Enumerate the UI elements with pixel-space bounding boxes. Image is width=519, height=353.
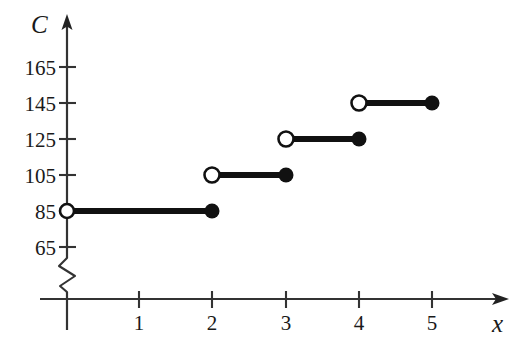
step-function-chart: 165 145 125 105 85 65 1 2 3 4 5 C x bbox=[0, 0, 519, 353]
open-endpoint-3 bbox=[279, 132, 294, 147]
open-endpoint-4 bbox=[352, 96, 367, 111]
x-axis-title: x bbox=[491, 310, 503, 337]
open-endpoint-1 bbox=[60, 204, 74, 218]
filled-endpoint-4 bbox=[425, 96, 440, 111]
step-segment-2 bbox=[205, 168, 294, 183]
x-tick-label-1: 1 bbox=[134, 311, 145, 335]
x-tick-label-4: 4 bbox=[354, 311, 365, 335]
y-axis-tick-labels: 165 145 125 105 85 65 bbox=[25, 56, 57, 260]
filled-endpoint-2 bbox=[279, 168, 294, 183]
y-tick-label-105: 105 bbox=[25, 164, 57, 188]
x-tick-label-2: 2 bbox=[207, 311, 218, 335]
y-tick-label-85: 85 bbox=[35, 200, 56, 224]
step-segments-group bbox=[60, 96, 440, 219]
x-tick-label-5: 5 bbox=[427, 311, 438, 335]
y-tick-label-165: 165 bbox=[25, 56, 57, 80]
chart-canvas: 165 145 125 105 85 65 1 2 3 4 5 C x bbox=[0, 0, 519, 353]
filled-endpoint-1 bbox=[205, 204, 220, 219]
y-tick-label-125: 125 bbox=[25, 128, 57, 152]
x-axis-tick-labels: 1 2 3 4 5 bbox=[134, 311, 438, 335]
step-segment-1 bbox=[60, 204, 220, 219]
filled-endpoint-3 bbox=[352, 132, 367, 147]
y-axis-break-symbol bbox=[59, 258, 75, 292]
open-endpoint-2 bbox=[205, 168, 220, 183]
y-axis-title: C bbox=[31, 11, 48, 38]
y-tick-label-145: 145 bbox=[25, 92, 57, 116]
step-segment-3 bbox=[279, 132, 367, 147]
x-tick-label-3: 3 bbox=[281, 311, 292, 335]
y-tick-label-65: 65 bbox=[35, 236, 56, 260]
step-segment-4 bbox=[352, 96, 440, 111]
